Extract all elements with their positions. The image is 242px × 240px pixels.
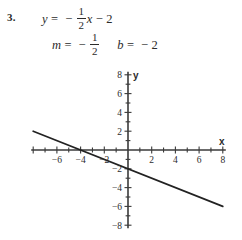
y-axis-label: y bbox=[133, 70, 139, 81]
intercept-minus-sign: − bbox=[137, 38, 151, 53]
intercept-equals-sign: = bbox=[123, 38, 137, 53]
slope-equals-sign: = bbox=[61, 38, 75, 53]
slope-fraction-one-half: 1 2 bbox=[90, 32, 99, 57]
slope-symbol: m bbox=[52, 38, 61, 53]
equation-line-2: m = − 1 2 b = − 2 bbox=[42, 32, 212, 58]
minus-sign-2: − bbox=[92, 12, 106, 27]
equation-line-1: y = − 1 2 x − 2 bbox=[42, 6, 212, 32]
graph-svg: −6−4−22468−8−6−4−22468yx bbox=[0, 60, 242, 240]
intercept-value: 2 bbox=[152, 38, 158, 53]
equals-sign: = bbox=[48, 12, 62, 27]
y-tick-label: 8 bbox=[117, 70, 122, 80]
x-tick-label: 6 bbox=[197, 155, 202, 165]
y-tick-label: −6 bbox=[112, 202, 122, 212]
axes-layer bbox=[31, 72, 226, 228]
fraction-numerator: 1 bbox=[78, 6, 84, 18]
problem-number: 3. bbox=[7, 11, 16, 23]
x-tick-label: 8 bbox=[220, 155, 225, 165]
y-tick-label: 6 bbox=[117, 89, 122, 99]
slope-fraction-numerator: 1 bbox=[92, 32, 98, 44]
y-tick-label: −2 bbox=[112, 164, 122, 174]
x-tick-label: −6 bbox=[52, 155, 62, 165]
minus-sign: − bbox=[62, 12, 76, 27]
x-tick-label: −4 bbox=[76, 155, 86, 165]
y-tick-label: −4 bbox=[112, 183, 122, 193]
x-tick-label: −2 bbox=[99, 155, 109, 165]
x-axis-label: x bbox=[219, 136, 225, 147]
y-tick-label: 2 bbox=[117, 127, 122, 137]
y-tick-label: 4 bbox=[117, 108, 122, 118]
fraction-denominator: 2 bbox=[78, 19, 84, 31]
equation-constant: 2 bbox=[106, 12, 112, 27]
slope-minus-sign: − bbox=[75, 38, 89, 53]
coordinate-graph: −6−4−22468−8−6−4−22468yx bbox=[0, 60, 242, 240]
x-tick-label: 4 bbox=[173, 155, 178, 165]
equation-block: y = − 1 2 x − 2 m = − 1 2 b = − 2 bbox=[42, 6, 212, 58]
fraction-one-half: 1 2 bbox=[77, 6, 86, 31]
slope-fraction-denominator: 2 bbox=[92, 45, 98, 57]
y-tick-label: −8 bbox=[112, 221, 122, 231]
x-tick-label: 2 bbox=[149, 155, 154, 165]
